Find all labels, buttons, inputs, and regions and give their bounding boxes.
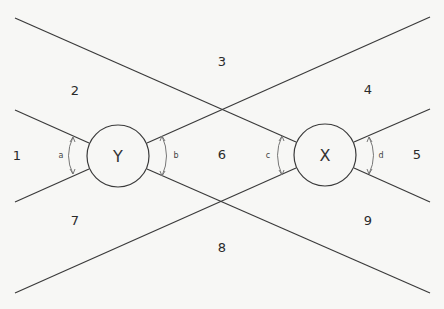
region-label-7: 7 xyxy=(71,213,79,228)
line-y-to-top-right xyxy=(147,17,430,143)
diagram-canvas: Y X 1 2 3 4 5 6 7 8 9 a b c d xyxy=(0,0,444,309)
node-y-label: Y xyxy=(112,147,123,166)
angle-arc-d xyxy=(367,137,374,174)
line-left-upper-to-y xyxy=(15,110,89,143)
region-label-9: 9 xyxy=(364,213,372,228)
region-label-8: 8 xyxy=(218,240,226,255)
line-x-to-right-lower xyxy=(354,168,430,202)
line-y-to-bottom-right xyxy=(147,169,430,293)
line-bottom-left-to-x xyxy=(15,168,296,293)
angle-label-c: c xyxy=(266,151,270,160)
angle-label-d: d xyxy=(378,151,383,160)
region-label-6: 6 xyxy=(218,147,226,162)
angle-label-b: b xyxy=(173,151,178,160)
angle-label-a: a xyxy=(59,151,64,160)
line-upper-left-to-x xyxy=(15,18,296,142)
region-label-1: 1 xyxy=(13,148,21,163)
line-left-lower-to-y xyxy=(15,169,89,202)
line-x-to-right-upper xyxy=(354,109,430,142)
region-label-5: 5 xyxy=(413,147,421,162)
angle-arc-c xyxy=(278,136,285,175)
angle-arc-b xyxy=(160,136,167,176)
node-x-label: X xyxy=(320,146,331,165)
angle-arc-a xyxy=(69,137,76,174)
region-label-3: 3 xyxy=(218,54,226,69)
region-label-4: 4 xyxy=(364,82,372,97)
region-label-2: 2 xyxy=(71,83,79,98)
